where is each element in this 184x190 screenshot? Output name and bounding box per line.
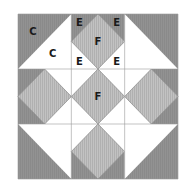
quilt-cell-r2c1 — [71, 124, 124, 179]
piece-label-e: E — [113, 17, 120, 28]
quilt-block-diagram: CCEEEEFF — [0, 0, 184, 190]
quilt-cell-r0c0 — [18, 14, 71, 69]
quilt-cell-r2c0 — [18, 124, 71, 179]
quilt-cell-r1c0 — [18, 69, 71, 124]
piece-label-e: E — [76, 56, 83, 67]
piece-label-f: F — [95, 91, 102, 102]
piece-label-e: E — [76, 17, 83, 28]
piece-label-c: C — [29, 26, 36, 37]
piece-label-e: E — [113, 56, 120, 67]
quilt-cell-r0c2 — [125, 14, 178, 69]
quilt-cell-r1c2 — [125, 69, 178, 124]
quilt-cell-r2c2 — [125, 124, 178, 179]
piece-label-f: F — [95, 36, 102, 47]
piece-label-c: C — [49, 48, 56, 59]
